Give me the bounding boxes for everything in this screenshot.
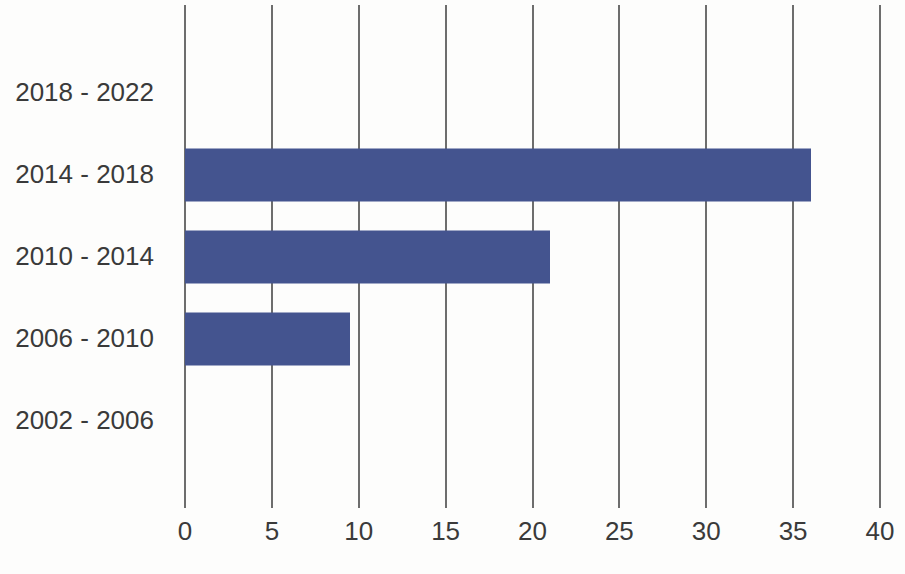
x-tick-label: 0 — [178, 516, 192, 547]
bar-band — [185, 298, 880, 380]
bar-band — [185, 216, 880, 298]
x-tick-label: 15 — [431, 516, 460, 547]
category-label: 2006 - 2010 — [0, 298, 166, 380]
bar-band — [185, 52, 880, 134]
category-axis: 2018 - 20222014 - 20182010 - 20142006 - … — [0, 5, 170, 508]
bar-chart: 2018 - 20222014 - 20182010 - 20142006 - … — [0, 0, 905, 574]
x-axis-tick-labels: 0510152025303540 — [185, 516, 880, 566]
x-tick-label: 25 — [605, 516, 634, 547]
bar[interactable] — [185, 312, 350, 365]
bar-band — [185, 134, 880, 216]
category-label: 2010 - 2014 — [0, 216, 166, 298]
x-tick-label: 35 — [779, 516, 808, 547]
bar[interactable] — [185, 230, 550, 283]
category-label: 2018 - 2022 — [0, 52, 166, 134]
bar-band — [185, 380, 880, 462]
x-tick-label: 20 — [518, 516, 547, 547]
category-label: 2014 - 2018 — [0, 134, 166, 216]
x-tick-label: 10 — [344, 516, 373, 547]
x-tick-label: 5 — [265, 516, 279, 547]
bar[interactable] — [185, 148, 811, 201]
x-tick-label: 40 — [866, 516, 895, 547]
bars-layer — [185, 5, 880, 508]
category-label: 2002 - 2006 — [0, 380, 166, 462]
x-tick-label: 30 — [692, 516, 721, 547]
